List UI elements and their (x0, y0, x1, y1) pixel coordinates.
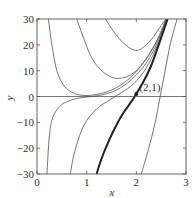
y-tick-label: 20 (23, 39, 35, 51)
y-tick-label: −30 (17, 168, 35, 180)
y-tick-labels: 3020100−10−20−30 (17, 13, 35, 180)
chart: 0123 3020100−10−20−30 x y (2,1) (0, 0, 196, 198)
y-tick-label: −20 (17, 142, 35, 154)
y-tick-label: 0 (29, 91, 35, 103)
y-tick-label: 10 (23, 65, 35, 77)
x-tick-label: 0 (34, 176, 40, 188)
x-tick-label: 1 (84, 176, 90, 188)
x-tick-label: 2 (134, 176, 140, 188)
x-axis-label: x (109, 186, 115, 198)
y-axis-label: y (3, 95, 15, 101)
y-tick-label: −10 (17, 116, 35, 128)
curve-b (77, 19, 166, 78)
y-tick-label: 30 (23, 13, 35, 25)
annotation-point (134, 92, 138, 96)
annotation-label: (2,1) (139, 81, 160, 94)
x-tick-label: 3 (183, 176, 189, 188)
